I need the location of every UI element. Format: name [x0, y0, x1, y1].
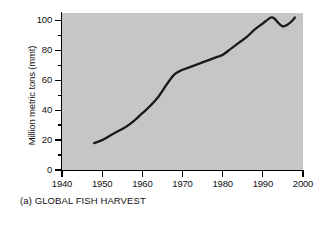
x-tick-label: 1990 — [243, 178, 283, 189]
y-tick-label: 80 — [26, 44, 52, 55]
x-tick — [142, 171, 143, 177]
x-tick — [61, 171, 62, 177]
y-tick-label: 100 — [26, 14, 52, 25]
x-tick-label: 1960 — [122, 178, 162, 189]
y-tick-label: 40 — [26, 104, 52, 115]
data-line-svg — [62, 13, 303, 170]
y-tick-label: 20 — [26, 134, 52, 145]
x-tick — [262, 171, 263, 177]
x-tick — [302, 171, 303, 177]
y-tick-label-group: 020406080100 — [24, 0, 52, 227]
y-tick-label: 0 — [26, 164, 52, 175]
x-tick-label: 1940 — [42, 178, 82, 189]
figure-caption: (a) GLOBAL FISH HARVEST — [20, 195, 146, 206]
x-tick-label: 1950 — [82, 178, 122, 189]
x-tick — [102, 171, 103, 177]
series-line-global-fish-harvest — [94, 17, 295, 143]
x-tick — [182, 171, 183, 177]
x-tick-label: 1980 — [203, 178, 243, 189]
y-tick-label: 60 — [26, 74, 52, 85]
plot-area — [62, 13, 303, 170]
x-tick-label: 2000 — [283, 178, 323, 189]
x-tick — [222, 171, 223, 177]
x-tick-label: 1970 — [163, 178, 203, 189]
figure-global-fish-harvest: Million metric tons (mmt) 020406080100 1… — [0, 0, 330, 227]
